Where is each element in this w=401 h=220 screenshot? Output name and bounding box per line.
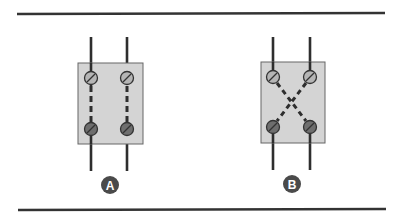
wiring-diagram: A B xyxy=(0,0,401,220)
label-badge-a: A xyxy=(101,176,119,194)
diagram-canvas: A B xyxy=(0,0,401,220)
screw-icon xyxy=(267,121,280,134)
label-b: B xyxy=(288,178,297,192)
label-a: A xyxy=(106,179,115,193)
screw-icon xyxy=(85,123,98,136)
screw-icon xyxy=(121,72,134,85)
bottom-rail xyxy=(18,209,386,210)
top-rail xyxy=(17,13,385,14)
panel-a: A xyxy=(78,37,143,194)
screw-icon xyxy=(304,71,317,84)
screw-icon xyxy=(85,72,98,85)
panel-b: B xyxy=(261,37,325,193)
label-badge-b: B xyxy=(283,175,301,193)
screw-icon xyxy=(304,121,317,134)
screw-icon xyxy=(267,71,280,84)
screw-icon xyxy=(121,123,134,136)
